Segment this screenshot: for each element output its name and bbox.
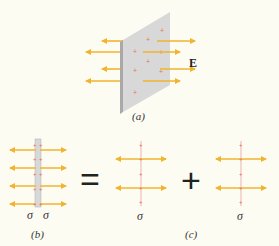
svg-text:+: + [239, 199, 243, 205]
svg-text:+: + [139, 156, 143, 162]
svg-text:+: + [146, 58, 150, 65]
field-label-E: E [189, 56, 197, 71]
svg-text:+: + [133, 67, 137, 74]
svg-text:+: + [39, 142, 43, 148]
equals-sign: = [80, 162, 100, 196]
svg-text:+: + [39, 186, 43, 192]
svg-text:+: + [239, 171, 243, 177]
svg-text:+: + [33, 186, 37, 192]
svg-text:+: + [139, 142, 143, 148]
svg-text:+: + [139, 185, 143, 191]
svg-text:+: + [133, 48, 137, 55]
panel-a-left-field-arrows [86, 41, 123, 81]
panel-a-label: (a) [132, 110, 145, 122]
svg-text:+: + [39, 171, 43, 177]
panel-c-sigma-1: σ [137, 209, 143, 224]
svg-text:+: + [33, 201, 37, 207]
panel-c-sheet-2: +++++ [216, 141, 266, 206]
svg-text:+: + [133, 89, 137, 96]
panel-c-sheet-1: +++++ [116, 141, 166, 206]
svg-text:+: + [139, 171, 143, 177]
svg-text:+: + [139, 199, 143, 205]
svg-text:+: + [39, 156, 43, 162]
svg-text:+: + [239, 156, 243, 162]
svg-text:+: + [33, 171, 37, 177]
panel-b-sigma-right: σ [43, 208, 49, 223]
svg-text:+: + [33, 156, 37, 162]
svg-text:+: + [160, 27, 164, 34]
svg-text:+: + [146, 36, 150, 43]
svg-text:+: + [33, 142, 37, 148]
plus-sign: + [181, 163, 201, 197]
svg-text:+: + [39, 201, 43, 207]
svg-text:+: + [239, 142, 243, 148]
panel-b-label: (b) [31, 228, 44, 240]
panel-b-sigma-left: σ [27, 208, 33, 223]
panel-c-sigma-2: σ [237, 209, 243, 224]
svg-text:+: + [239, 185, 243, 191]
panel-c-label: (c) [185, 228, 197, 240]
